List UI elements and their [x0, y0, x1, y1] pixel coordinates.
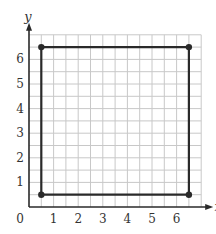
x-tick-label: 4: [124, 212, 132, 226]
x-tick-label: 5: [148, 212, 156, 226]
y-tick-label: 4: [16, 102, 24, 116]
origin-label: 0: [16, 212, 24, 226]
y-tick-label: 1: [16, 175, 24, 189]
vertex-point: [38, 44, 44, 50]
coordinate-plane: 1234561234560xy: [0, 0, 216, 234]
x-axis-label: x: [215, 199, 216, 214]
y-tick-label: 2: [16, 151, 24, 165]
y-axis-arrow-icon: [26, 23, 32, 31]
x-tick-label: 3: [99, 212, 107, 226]
x-tick-label: 6: [173, 212, 181, 226]
vertex-point: [186, 192, 192, 198]
x-tick-label: 1: [50, 212, 58, 226]
x-tick-label: 2: [74, 212, 82, 226]
grid-lines: [29, 35, 201, 207]
vertex-point: [186, 44, 192, 50]
y-axis-label: y: [23, 9, 32, 24]
x-axis-arrow-icon: [205, 204, 213, 210]
y-tick-label: 3: [16, 126, 24, 140]
y-tick-label: 5: [16, 77, 24, 91]
y-tick-label: 6: [16, 52, 24, 66]
vertex-point: [38, 192, 44, 198]
